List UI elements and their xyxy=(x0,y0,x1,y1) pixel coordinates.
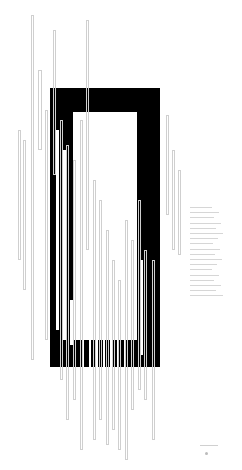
white-bar xyxy=(56,130,59,330)
thin-bar xyxy=(73,160,76,400)
text-line xyxy=(190,207,212,208)
text-line xyxy=(190,259,222,260)
white-bar xyxy=(89,340,91,367)
text-line xyxy=(190,285,221,286)
thin-bar xyxy=(138,200,141,390)
thin-bar xyxy=(60,120,63,380)
thin-bar xyxy=(131,240,134,410)
thin-bar xyxy=(99,200,102,420)
thin-bar xyxy=(80,120,83,450)
text-line xyxy=(190,243,213,244)
text-line xyxy=(190,264,217,265)
thin-bar xyxy=(144,250,147,400)
text-line xyxy=(190,212,219,213)
thin-bar xyxy=(152,260,155,440)
thin-bar xyxy=(93,180,96,440)
thin-bar xyxy=(18,130,21,260)
text-line xyxy=(190,280,214,281)
thin-bar xyxy=(23,140,26,290)
thin-bar xyxy=(31,15,34,360)
artwork-canvas xyxy=(0,0,242,470)
thin-bar xyxy=(118,280,121,450)
text-line xyxy=(190,238,218,239)
text-line xyxy=(190,233,223,234)
thin-bar xyxy=(172,150,175,250)
thin-bar xyxy=(112,260,115,430)
thin-bar xyxy=(66,145,69,420)
text-line xyxy=(190,290,216,291)
text-line xyxy=(190,254,215,255)
thin-bar xyxy=(178,170,181,255)
text-line xyxy=(190,275,219,276)
thin-bar xyxy=(86,20,89,250)
white-bar xyxy=(96,340,98,367)
text-line xyxy=(190,228,216,229)
text-line xyxy=(190,249,220,250)
text-line xyxy=(190,217,214,218)
text-line xyxy=(190,223,221,224)
thin-bar xyxy=(125,220,128,460)
thin-bar xyxy=(45,110,48,340)
thin-bar xyxy=(106,230,109,445)
signature-mark xyxy=(205,452,208,455)
thin-bar xyxy=(166,115,169,215)
white-bar xyxy=(103,340,105,367)
signature xyxy=(200,445,218,446)
thin-bar xyxy=(38,70,42,150)
thin-bar xyxy=(53,30,56,175)
text-line xyxy=(190,269,212,270)
text-line xyxy=(190,295,223,296)
